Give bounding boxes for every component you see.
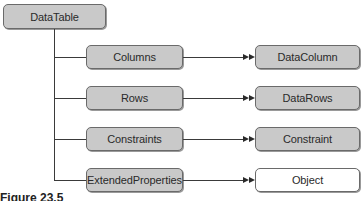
- datacolumn-node: DataColumn: [255, 45, 360, 69]
- constraint-node: Constraint: [255, 127, 360, 151]
- datatable-label: DataTable: [30, 11, 79, 23]
- object-node: Object: [255, 168, 360, 192]
- datacolumn-label: DataColumn: [277, 51, 337, 63]
- branch-connector-constraints: [54, 139, 86, 140]
- datarows-node: DataRows: [255, 86, 360, 110]
- trunk-connector: [54, 29, 55, 181]
- arrow-line-rows: [183, 98, 245, 99]
- rows-node: Rows: [86, 86, 183, 110]
- figure-caption: Figure 23.5: [0, 191, 63, 201]
- object-label: Object: [292, 174, 323, 186]
- datarows-label: DataRows: [283, 92, 333, 104]
- arrow-line-extendedproperties: [183, 180, 245, 181]
- arrow-line-constraints: [183, 139, 245, 140]
- datatable-node: DataTable: [3, 4, 106, 29]
- branch-connector-rows: [54, 98, 86, 99]
- columns-label: Columns: [113, 51, 156, 63]
- extendedproperties-node: ExtendedProperties: [86, 168, 183, 192]
- arrow-line-columns: [183, 57, 245, 58]
- constraints-label: Constraints: [107, 133, 162, 145]
- columns-node: Columns: [86, 45, 183, 69]
- extendedproperties-label: ExtendedProperties: [87, 174, 182, 186]
- rows-label: Rows: [121, 92, 148, 104]
- constraints-node: Constraints: [86, 127, 183, 151]
- branch-connector-extendedproperties: [54, 180, 86, 181]
- branch-connector-columns: [54, 57, 86, 58]
- constraint-label: Constraint: [283, 133, 332, 145]
